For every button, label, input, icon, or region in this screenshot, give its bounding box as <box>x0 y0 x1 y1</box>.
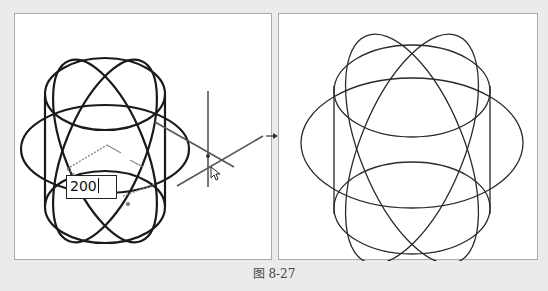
dimension-input[interactable]: 200 <box>66 175 117 199</box>
figure-caption: 图 8-27 <box>0 264 548 281</box>
arrow-right-icon <box>266 131 278 141</box>
cursor-icon <box>211 167 220 180</box>
dimension-input-value: 200 <box>70 178 97 194</box>
move-gizmo <box>155 91 263 187</box>
text-caret <box>98 178 99 193</box>
before-wireframe-drawing <box>15 14 273 261</box>
before-panel: 200 <box>14 13 272 260</box>
after-panel <box>278 13 538 260</box>
after-wireframe-drawing <box>279 14 539 261</box>
